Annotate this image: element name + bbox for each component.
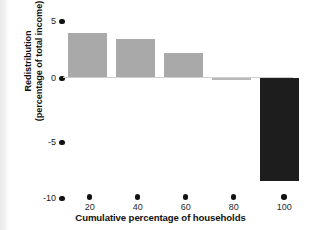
y-tick-minus10-value: -10 — [40, 194, 56, 203]
zero-baseline — [63, 77, 293, 78]
x-tick-40-value: 40 — [133, 203, 143, 212]
x-tick-20-value: 20 — [85, 203, 95, 212]
x-tick-20: 20 — [85, 194, 95, 212]
plot-area — [68, 20, 293, 197]
x-tick-100: 100 — [277, 194, 292, 212]
y-tick-5-marker — [59, 19, 65, 25]
x-tick-40: 40 — [133, 194, 143, 212]
y-tick-5-value: 5 — [40, 17, 56, 26]
y-tick-0: 0 — [40, 74, 65, 83]
x-tick-100-marker — [281, 194, 287, 200]
y-tick-5: 5 — [40, 17, 65, 26]
y-tick-minus5-value: -5 — [40, 138, 56, 147]
bar-40[interactable] — [116, 39, 155, 77]
y-tick-minus10-marker — [59, 196, 65, 202]
bar-80[interactable] — [212, 78, 251, 80]
bar-20[interactable] — [68, 33, 107, 77]
x-tick-100-value: 100 — [277, 203, 292, 212]
bar-60[interactable] — [164, 53, 203, 77]
x-axis-label: Cumulative percentage of households — [0, 212, 321, 223]
x-tick-80-marker — [231, 194, 237, 200]
x-tick-40-marker — [135, 194, 141, 200]
x-tick-20-marker — [87, 194, 93, 200]
bar-100[interactable] — [260, 78, 299, 181]
y-tick-minus5-marker — [59, 140, 65, 146]
y-tick-minus5: -5 — [40, 138, 65, 147]
y-axis-label-line1: Redistribution — [23, 31, 34, 92]
x-tick-60-marker — [183, 194, 189, 200]
x-tick-80-value: 80 — [229, 203, 239, 212]
x-tick-60-value: 60 — [181, 203, 191, 212]
redistribution-bar-chart: Redistribution (percentage of total inco… — [0, 0, 321, 230]
x-tick-80: 80 — [229, 194, 239, 212]
y-tick-minus10: -10 — [40, 194, 65, 203]
x-tick-60: 60 — [181, 194, 191, 212]
y-tick-0-value: 0 — [40, 74, 56, 83]
